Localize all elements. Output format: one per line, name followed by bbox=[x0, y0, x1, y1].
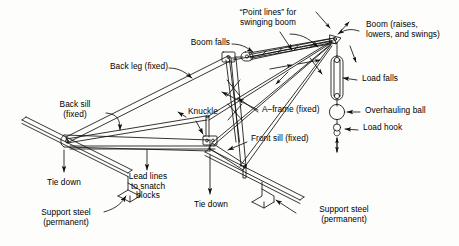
label-tie-down-mid: Tie down bbox=[178, 200, 244, 210]
label-support-steel-left: Support steel (permanent) bbox=[22, 208, 110, 227]
label-boom-falls: Boom falls bbox=[142, 38, 230, 48]
derrick-diagram: “Point lines” for swinging boom Boom fal… bbox=[0, 0, 459, 246]
label-load-falls: Load falls bbox=[362, 74, 424, 84]
label-back-leg: Back leg (fixed) bbox=[62, 62, 168, 72]
label-knuckle: Knuckle bbox=[188, 107, 244, 117]
label-boom: Boom (raises, lowers, and swings) bbox=[366, 20, 459, 39]
label-load-hook: Load hook bbox=[363, 123, 433, 133]
back-sill-brace bbox=[206, 115, 209, 137]
label-a-frame: A–frame (fixed) bbox=[262, 105, 358, 115]
label-point-lines: “Point lines” for swinging boom bbox=[214, 8, 322, 27]
label-overhauling-ball: Overhauling ball bbox=[365, 106, 459, 116]
label-support-steel-right: Support steel (permanent) bbox=[300, 205, 388, 224]
label-back-sill: Back sill (fixed) bbox=[44, 100, 106, 119]
label-tie-down-left: Tie down bbox=[31, 178, 97, 188]
label-lead-lines: Lead lines to snatch blocks bbox=[113, 172, 183, 201]
load-falls bbox=[331, 42, 343, 104]
label-front-sill: Front sill (fixed) bbox=[251, 134, 347, 144]
